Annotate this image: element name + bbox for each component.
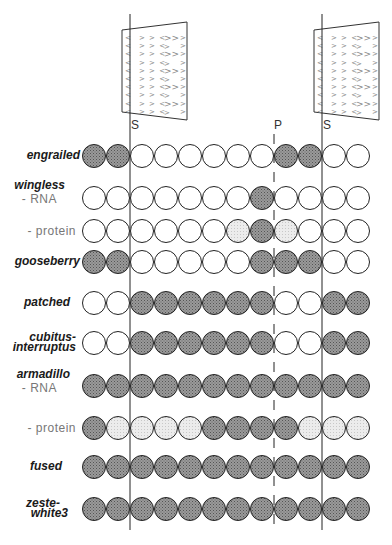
svg-text:> > <: > > < (331, 75, 358, 83)
cell-circle (203, 417, 226, 440)
cell-circle (299, 498, 322, 521)
svg-text:>: > (180, 67, 186, 75)
svg-text:>: > (180, 34, 186, 42)
cell-circle (347, 145, 370, 168)
cell-circle (227, 145, 250, 168)
cell-circle (227, 417, 250, 440)
svg-text:> > <: > > < (139, 75, 166, 83)
svg-text:> > <: > > < (331, 108, 358, 116)
expression-row (83, 456, 370, 479)
cell-circle (203, 220, 226, 243)
cell-circle (227, 220, 250, 243)
cell-circle (203, 251, 226, 274)
cell-circle (83, 456, 106, 479)
cell-circle (107, 456, 130, 479)
cell-circle (323, 498, 346, 521)
cell-circle (251, 375, 274, 398)
cell-circle (155, 251, 178, 274)
cell-circle (299, 417, 322, 440)
cell-circle (299, 187, 322, 210)
svg-text:>: > (372, 42, 378, 50)
gene-label-armadillo: armadillo (17, 369, 70, 380)
cell-circle (299, 251, 322, 274)
cell-circle (179, 332, 202, 355)
parasegment-boundary-label: P (274, 118, 282, 132)
svg-text:> > <: > > < (331, 100, 358, 108)
cell-circle (83, 292, 106, 315)
svg-text:> > <: > > < (139, 34, 166, 42)
cell-circle (275, 332, 298, 355)
svg-text:>>: >> (356, 66, 371, 76)
svg-text:>: > (372, 75, 378, 83)
cell-circle (83, 498, 106, 521)
cell-circle (83, 332, 106, 355)
sub-label-wingless-rna: - RNA (22, 192, 57, 206)
svg-text:>>: >> (164, 99, 179, 109)
svg-text:>: > (356, 109, 362, 117)
cell-circle (347, 251, 370, 274)
cell-circle (155, 456, 178, 479)
cell-circle (203, 375, 226, 398)
svg-text:> > <: > > < (139, 42, 166, 50)
cell-circle (107, 187, 130, 210)
cell-circle (131, 375, 154, 398)
cell-circle (275, 251, 298, 274)
cell-circle (251, 292, 274, 315)
cell-circle (131, 220, 154, 243)
svg-text:> > <: > > < (331, 42, 358, 50)
expression-row (83, 220, 370, 243)
svg-text:>>: >> (164, 49, 179, 59)
cell-circle (251, 187, 274, 210)
cell-circle (203, 292, 226, 315)
expression-row (83, 417, 370, 440)
cell-circle (347, 187, 370, 210)
svg-text:>>: >> (164, 33, 179, 43)
svg-text:> > <: > > < (139, 91, 166, 99)
cell-circle (107, 498, 130, 521)
cell-circle (323, 187, 346, 210)
sub-label-armadillo-protein: - protein (27, 421, 76, 435)
svg-text:>: > (372, 34, 378, 42)
cell-circle (83, 187, 106, 210)
cell-circle (107, 251, 130, 274)
cell-circle (179, 251, 202, 274)
cell-circle (131, 417, 154, 440)
cell-circle (323, 220, 346, 243)
cell-circle (155, 145, 178, 168)
cell-circle (179, 456, 202, 479)
cell-circle (179, 292, 202, 315)
cell-circle (203, 456, 226, 479)
cell-circle (323, 292, 346, 315)
cell-circle (275, 456, 298, 479)
cell-circle (299, 292, 322, 315)
svg-text:> > <: > > < (139, 108, 166, 116)
gene-label-engrailed: engrailed (27, 150, 80, 161)
svg-text:>: > (372, 108, 378, 116)
cell-circle (275, 292, 298, 315)
cell-circle (227, 187, 250, 210)
cell-circle (107, 375, 130, 398)
svg-text:>>: >> (356, 49, 371, 59)
cell-circle (83, 145, 106, 168)
svg-text:>: > (180, 42, 186, 50)
cell-circle (83, 220, 106, 243)
svg-text:> > <: > > < (139, 83, 166, 91)
expression-row (83, 332, 370, 355)
cell-circle (131, 292, 154, 315)
svg-text:>>: >> (164, 82, 179, 92)
cell-circle (107, 145, 130, 168)
cell-circle (179, 220, 202, 243)
expression-row (83, 498, 370, 521)
gene-label-cubitus-line2: interruptus (13, 342, 76, 353)
cell-circle (131, 145, 154, 168)
cell-circle (203, 187, 226, 210)
cell-circle (251, 456, 274, 479)
cell-circle (227, 251, 250, 274)
cell-circle (179, 375, 202, 398)
cell-circle (251, 220, 274, 243)
expression-row (83, 251, 370, 274)
gene-label-gooseberry: gooseberry (15, 256, 80, 267)
cell-circle (131, 251, 154, 274)
cell-circle (227, 332, 250, 355)
cell-circle (251, 332, 274, 355)
